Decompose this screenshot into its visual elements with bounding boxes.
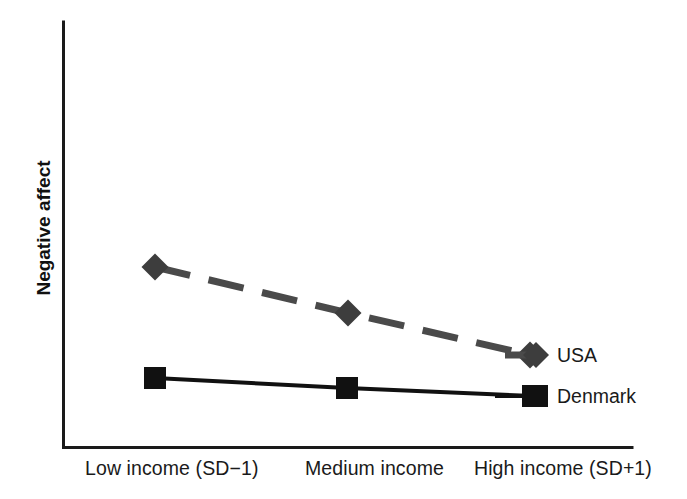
x-tick-label-medium-income: Medium income (305, 457, 444, 480)
data-point-usa (142, 254, 169, 281)
legend-label-usa: USA (557, 344, 597, 367)
x-tick-label-high-income: High income (SD+1) (474, 457, 652, 480)
legend-marker-square-denmark (526, 385, 548, 407)
series-markers-denmark (144, 367, 544, 407)
x-tick-label-low-income: Low income (SD−1) (85, 457, 258, 480)
series-markers-usa (142, 254, 544, 369)
y-axis-label: Negative affect (31, 108, 57, 348)
data-point-denmark (144, 367, 166, 389)
data-point-denmark (336, 377, 358, 399)
chart-canvas (0, 0, 687, 499)
data-point-usa (335, 300, 362, 327)
legend-label-denmark: Denmark (557, 385, 636, 408)
chart-figure: Negative affect Low income (SD−1) Medium… (0, 0, 687, 499)
